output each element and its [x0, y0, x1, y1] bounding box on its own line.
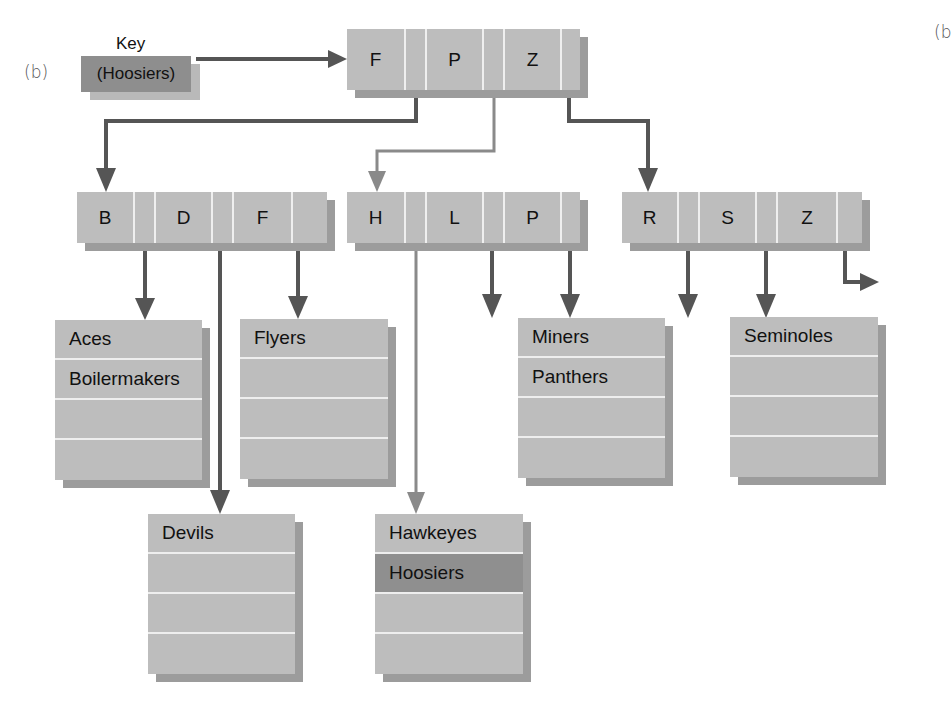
leaf-row — [55, 440, 202, 480]
leaf-flyers: Flyers — [240, 319, 388, 479]
leaf-row — [55, 400, 202, 440]
leaf-row: Flyers — [240, 319, 388, 359]
node-key-h: H — [347, 192, 404, 243]
leaf-row — [730, 397, 878, 437]
leaf-row: Boilermakers — [55, 360, 202, 400]
leaf-miners: Miners Panthers — [518, 318, 665, 478]
root-key-f: F — [347, 29, 404, 90]
leaf-row — [148, 554, 295, 594]
leaf-row: Hawkeyes — [375, 514, 523, 554]
leaf-row — [240, 399, 388, 439]
leaf-seminoles: Seminoles — [730, 317, 878, 477]
leaf-row: Aces — [55, 320, 202, 360]
node-key-z: Z — [778, 192, 836, 243]
node-key-l: L — [427, 192, 482, 243]
leaf-row-highlighted: Hoosiers — [375, 554, 523, 594]
node-pointer — [135, 192, 154, 243]
node-pointer — [213, 192, 232, 243]
root-key-z: Z — [505, 29, 560, 90]
root-pointer-2 — [484, 29, 503, 90]
node-pointer — [562, 192, 580, 243]
root-key-p: P — [427, 29, 482, 90]
node-pointer — [757, 192, 776, 243]
node-bdf: B D F — [77, 192, 327, 243]
leaf-row — [730, 357, 878, 397]
leaf-row: Panthers — [518, 358, 665, 398]
leaf-row — [518, 438, 665, 478]
leaf-aces: Aces Boilermakers — [55, 320, 202, 480]
leaf-row: Miners — [518, 318, 665, 358]
node-key-s: S — [700, 192, 755, 243]
node-key-b: B — [77, 192, 133, 243]
root-pointer-1 — [406, 29, 425, 90]
node-pointer — [406, 192, 425, 243]
leaf-row: Devils — [148, 514, 295, 554]
leaf-row — [148, 594, 295, 634]
leaf-hawkeyes: Hawkeyes Hoosiers — [375, 514, 523, 674]
node-key-r: R — [622, 192, 677, 243]
node-pointer — [838, 192, 860, 243]
node-hlp: H L P — [347, 192, 580, 243]
leaf-row: Seminoles — [730, 317, 878, 357]
leaf-row — [240, 439, 388, 479]
leaf-row — [148, 634, 295, 674]
root-pointer-3 — [562, 29, 580, 90]
leaf-row — [730, 437, 878, 477]
node-rsz: R S Z — [622, 192, 862, 243]
node-key-d: D — [156, 192, 211, 243]
node-key-p: P — [505, 192, 560, 243]
leaf-row — [375, 594, 523, 634]
leaf-devils: Devils — [148, 514, 295, 674]
leaf-row — [518, 398, 665, 438]
node-pointer — [484, 192, 503, 243]
node-key-f: F — [234, 192, 291, 243]
leaf-row — [240, 359, 388, 399]
root-node: F P Z — [347, 29, 580, 90]
node-pointer — [293, 192, 325, 243]
node-pointer — [679, 192, 698, 243]
leaf-row — [375, 634, 523, 674]
